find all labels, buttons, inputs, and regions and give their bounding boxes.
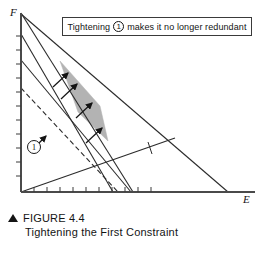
triangle-up-icon [8,214,18,222]
constraint-badge-1: 1 [27,140,41,154]
callout-text: Tightening 1 makes it no longer redundan… [67,21,246,32]
constraint-line-4 [21,14,228,192]
callout-text-before: Tightening [67,22,110,32]
figure-caption: FIGURE 4.4 Tightening the First Constrai… [8,212,258,238]
callout-box: Tightening 1 makes it no longer redundan… [62,17,252,36]
figure-title: Tightening the First Constraint [25,226,258,238]
figure-caption-heading: FIGURE 4.4 [8,212,258,224]
figure-number: FIGURE 4.4 [23,212,85,224]
constraint-line-2 [21,13,133,192]
figure-4-4: F E Tightening 1 makes it no longer redu… [0,0,268,253]
x-axis-label: E [243,193,250,205]
constraint-line-5 [21,138,175,192]
constraint-line-5-tick [148,142,152,154]
callout-badge-1: 1 [113,21,124,32]
callout-text-after: makes it no longer redundant [127,22,246,32]
y-axis-label: F [10,6,17,18]
